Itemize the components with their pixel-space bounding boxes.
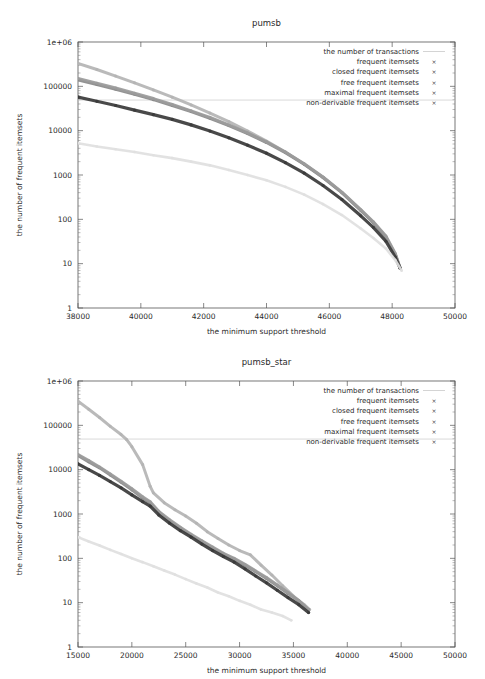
data-point bbox=[394, 259, 397, 262]
y-axis-label: the number of frequent itemsets bbox=[15, 114, 24, 237]
data-point bbox=[95, 68, 98, 71]
y-tick-label: 100000 bbox=[43, 82, 72, 91]
data-point bbox=[290, 619, 293, 622]
data-point bbox=[341, 214, 344, 217]
data-point bbox=[270, 574, 273, 577]
data-point bbox=[359, 214, 362, 217]
data-point bbox=[152, 88, 155, 91]
x-tick-label: 38000 bbox=[66, 312, 90, 321]
x-tick-label: 50000 bbox=[443, 312, 467, 321]
data-point bbox=[109, 480, 112, 483]
y-tick-label: 100000 bbox=[43, 421, 72, 430]
data-point bbox=[249, 603, 252, 606]
data-point bbox=[265, 581, 268, 584]
data-point bbox=[206, 586, 209, 589]
data-point bbox=[228, 595, 231, 598]
data-point bbox=[190, 160, 193, 163]
data-point bbox=[131, 557, 134, 560]
data-point bbox=[384, 235, 387, 238]
data-point bbox=[87, 408, 90, 411]
data-point bbox=[254, 569, 257, 572]
data-point bbox=[130, 487, 133, 490]
data-point bbox=[184, 515, 187, 518]
data-point bbox=[372, 220, 375, 223]
data-point bbox=[246, 131, 249, 134]
data-point bbox=[321, 184, 324, 187]
data-point bbox=[200, 542, 203, 545]
data-point bbox=[133, 81, 136, 84]
data-point bbox=[87, 468, 90, 471]
chart-canvas-pumsb-star: pumsb_star1101001000100001000001e+061500… bbox=[0, 339, 485, 679]
legend-marker-swatch: × bbox=[431, 99, 436, 106]
data-point bbox=[260, 608, 263, 611]
data-point bbox=[190, 536, 193, 539]
data-point bbox=[77, 62, 80, 65]
data-point bbox=[265, 152, 268, 155]
x-tick-label: 15000 bbox=[66, 651, 90, 660]
y-tick-label: 10 bbox=[62, 259, 72, 268]
x-axis-label: the minimum support threshold bbox=[207, 666, 326, 675]
legend-marker-swatch: × bbox=[431, 89, 436, 96]
data-point bbox=[149, 505, 152, 508]
legend-label: free frequent itemsets bbox=[341, 79, 420, 87]
legend-label: closed frequent itemsets bbox=[332, 407, 419, 415]
data-point bbox=[227, 543, 230, 546]
data-point bbox=[120, 433, 123, 436]
x-tick-label: 35000 bbox=[281, 651, 305, 660]
data-point bbox=[233, 561, 236, 564]
data-point bbox=[77, 400, 80, 403]
data-point bbox=[307, 611, 310, 614]
data-point bbox=[265, 140, 268, 143]
data-point bbox=[246, 144, 249, 147]
data-point bbox=[109, 425, 112, 428]
data-point bbox=[157, 513, 160, 516]
data-point bbox=[249, 553, 252, 556]
data-point bbox=[284, 161, 287, 164]
data-point bbox=[133, 109, 136, 112]
data-point bbox=[284, 151, 287, 154]
data-point bbox=[109, 549, 112, 552]
data-point bbox=[322, 176, 325, 179]
data-point bbox=[243, 563, 246, 566]
data-point bbox=[209, 164, 212, 167]
data-point bbox=[228, 169, 231, 172]
data-point bbox=[77, 77, 80, 80]
series-line bbox=[78, 401, 310, 609]
data-point bbox=[98, 474, 101, 477]
data-point bbox=[359, 227, 362, 230]
data-point bbox=[238, 600, 241, 603]
data-point bbox=[190, 103, 193, 106]
data-point bbox=[238, 549, 241, 552]
data-point bbox=[303, 172, 306, 175]
chart-title: pumsb_star bbox=[242, 357, 292, 367]
data-point bbox=[120, 480, 123, 483]
data-point bbox=[297, 603, 300, 606]
legend-label: the number of transactions bbox=[324, 48, 420, 56]
data-point bbox=[322, 203, 325, 206]
data-point bbox=[211, 549, 214, 552]
data-point bbox=[130, 493, 133, 496]
data-point bbox=[271, 611, 274, 614]
data-point bbox=[76, 96, 79, 99]
data-point bbox=[152, 154, 155, 157]
data-point bbox=[174, 573, 177, 576]
legend-marker-swatch: × bbox=[431, 428, 436, 435]
chart-pumsb-star: pumsb_star1101001000100001000001e+061500… bbox=[0, 339, 485, 679]
data-point bbox=[243, 567, 246, 570]
x-tick-label: 45000 bbox=[389, 651, 413, 660]
x-tick-label: 40000 bbox=[129, 312, 153, 321]
legend-label: frequent itemsets bbox=[357, 397, 420, 405]
data-point bbox=[87, 459, 90, 462]
data-point bbox=[195, 522, 198, 525]
data-point bbox=[260, 564, 263, 567]
data-point bbox=[340, 198, 343, 201]
data-point bbox=[152, 491, 155, 494]
x-tick-label: 42000 bbox=[192, 312, 216, 321]
data-point bbox=[184, 578, 187, 581]
data-point bbox=[179, 529, 182, 532]
data-point bbox=[149, 485, 152, 488]
legend-marker-swatch: × bbox=[431, 438, 436, 445]
data-point bbox=[359, 208, 362, 211]
data-point bbox=[96, 145, 99, 148]
chart-title: pumsb bbox=[252, 18, 281, 28]
